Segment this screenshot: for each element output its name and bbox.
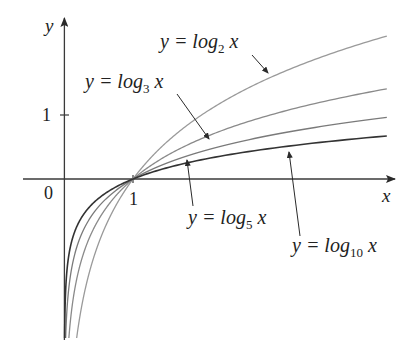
annotation-log2: y = log2 x [158,30,268,73]
svg-text:y = log2 x: y = log2 x [158,30,238,56]
svg-text:y = log10 x: y = log10 x [290,234,377,260]
annotation-log5-suffix: x [252,206,266,228]
svg-text:y = log3 x: y = log3 x [83,70,163,96]
annotation-log5-arrow [187,160,193,206]
annotation-log5: y = log5 x [186,160,266,232]
log-functions-chart: y x 0 1 1 y = log2 x y = log3 x y = log5… [0,0,414,355]
axes [23,18,395,340]
annotation-log5-prefix: y = log [186,206,246,229]
y-axis-label: y [43,15,54,36]
annotation-log3-suffix: x [149,70,163,92]
x-tick-label-1: 1 [129,189,138,209]
annotation-log3-arrow [177,94,209,139]
y-tick-label-1: 1 [42,105,51,125]
annotation-log3: y = log3 x [83,70,209,139]
annotation-log2-suffix: x [224,30,238,52]
svg-text:y = log5 x: y = log5 x [186,206,266,232]
annotation-log2-prefix: y = log [158,30,218,53]
annotation-log2-arrow [252,55,268,73]
annotation-log10-prefix: y = log [290,234,350,257]
annotation-log3-prefix: y = log [83,70,143,93]
x-axis-label: x [381,185,391,206]
annotation-log10-arrow [289,152,300,236]
origin-label: 0 [44,183,53,203]
annotation-log10-suffix: x [363,234,377,256]
annotation-log10-sub: 10 [350,245,363,260]
annotation-log10: y = log10 x [289,152,377,260]
